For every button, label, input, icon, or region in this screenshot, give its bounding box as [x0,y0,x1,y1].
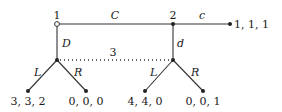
payoff-D-L: 3, 3, 2 [11,95,46,108]
payoff-cc: 1, 1, 1 [234,18,269,31]
edge-L-left [28,60,57,91]
game-tree: 1 2 3 C c D d L R L R 1, 1, 1 3, 3, 2 0,… [0,0,282,112]
action-L-right-label: L [149,66,157,79]
action-d-label: d [177,37,184,50]
player2-node [171,22,175,26]
root-node [55,22,60,27]
payoff-Cd-L: 4, 4, 0 [128,95,163,108]
player1-label: 1 [54,9,61,22]
player2-label: 2 [170,9,177,22]
payoff-D-R: 0, 0, 0 [69,95,104,108]
terminal-node-4 [201,89,205,93]
player3-node-left [55,58,59,62]
player3-label: 3 [110,46,117,59]
action-R-left-label: R [73,66,82,79]
player3-node-right [171,58,175,62]
terminal-node-cc [228,22,232,26]
terminal-node-3 [143,89,147,93]
terminal-node-2 [84,89,88,93]
action-D-label: D [61,37,71,50]
action-R-right-label: R [190,66,199,79]
action-C-label: C [111,9,120,22]
action-L-left-label: L [33,66,41,79]
terminal-node-1 [26,89,30,93]
action-c-label: c [199,9,205,22]
payoff-Cd-R: 0, 0, 1 [186,95,221,108]
